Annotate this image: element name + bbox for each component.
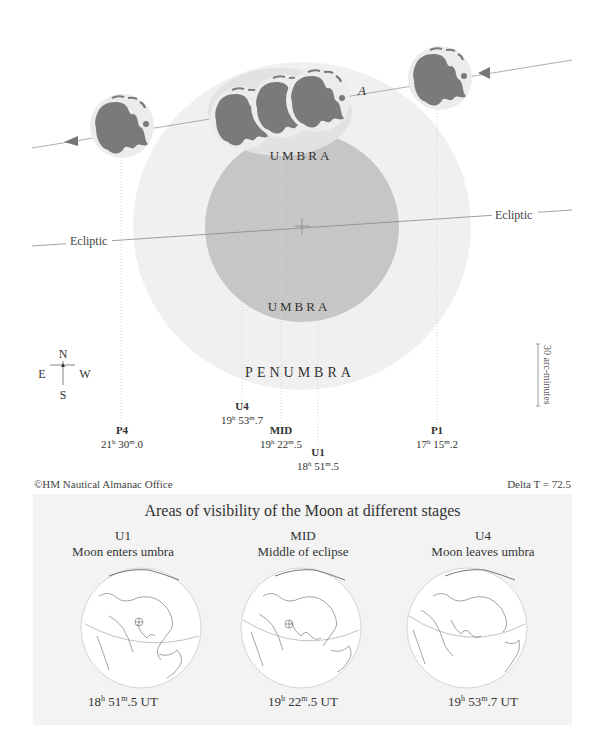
compass-east: E: [38, 367, 45, 381]
compass-north: N: [59, 347, 68, 361]
direction-arrow-icon: [64, 136, 78, 146]
compass-west: W: [79, 367, 91, 381]
contact-label: U4: [215, 400, 269, 412]
compass-south: S: [60, 388, 67, 402]
stage-description: Moon enters umbra: [38, 544, 208, 560]
stage-u4-time: 19h 53m.7 UT: [398, 694, 568, 710]
ecliptic-label-left: Ecliptic: [70, 234, 107, 248]
scale-bar: [536, 344, 540, 406]
direction-arrow-icon: [478, 67, 490, 79]
panel-title: Areas of visibility of the Moon at diffe…: [33, 502, 572, 520]
globe-map-u4: [405, 566, 529, 690]
stage-code: U1: [38, 528, 208, 544]
moon-p1: [408, 46, 472, 110]
scale-bar-label: 30 arc-minutes: [542, 345, 553, 405]
contact-p1: P1 17h 15m.2: [410, 424, 464, 450]
penumbra-label-partial: A: [357, 83, 366, 98]
stage-u1-time: 18h 51m.5 UT: [38, 694, 208, 710]
contact-label: MID: [254, 424, 308, 436]
umbra-label-top: UMBRA: [270, 148, 333, 163]
umbra-label-bottom: UMBRA: [268, 299, 331, 314]
contact-p4: P4 21h 30m.0: [95, 424, 149, 450]
contact-u4: U4 19h 53m.7: [215, 400, 269, 426]
globe-map-u1: [79, 566, 203, 690]
eclipse-diagram: UMBRA UMBRA PENUMBRA A Ecliptic Ecliptic…: [0, 0, 602, 480]
stage-description: Middle of eclipse: [218, 544, 388, 560]
stage-mid-time: 19h 22m.5 UT: [218, 694, 388, 710]
copyright-credit: ©HM Nautical Almanac Office: [34, 478, 173, 490]
moon-p4: [90, 94, 154, 158]
contact-u1: U1 18h 51m.5: [291, 446, 345, 472]
stage-code: MID: [218, 528, 388, 544]
contact-label: U1: [291, 446, 345, 458]
stage-description: Moon leaves umbra: [398, 544, 568, 560]
stage-u4-header: U4 Moon leaves umbra: [398, 528, 568, 560]
globe-map-mid: [239, 566, 363, 690]
visibility-panel: Areas of visibility of the Moon at diffe…: [33, 494, 572, 725]
ecliptic-label-right: Ecliptic: [495, 208, 532, 222]
delta-t-value: Delta T = 72.5: [507, 478, 571, 490]
stage-code: U4: [398, 528, 568, 544]
contact-label: P1: [410, 424, 464, 436]
contact-label: P4: [95, 424, 149, 436]
penumbra-label: PENUMBRA: [245, 365, 355, 380]
stage-u1-header: U1 Moon enters umbra: [38, 528, 208, 560]
stage-mid-header: MID Middle of eclipse: [218, 528, 388, 560]
